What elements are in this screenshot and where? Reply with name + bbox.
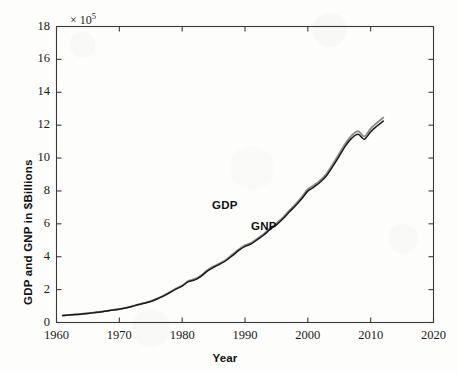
plot-canvas <box>0 0 458 373</box>
x-tick-label: 1980 <box>157 328 207 343</box>
y-tick-label: 18 <box>18 19 50 34</box>
y-tick-label: 12 <box>18 117 50 132</box>
data-series-layer <box>63 118 383 316</box>
chart-figure: × 105 024681012141618 196019701980199020… <box>0 0 458 373</box>
x-tick-label: 1970 <box>94 328 144 343</box>
series-line-gdp <box>63 121 383 316</box>
x-tick-label: 1960 <box>32 328 82 343</box>
gnp-series-label: GNP <box>251 220 277 232</box>
y-axis-tick-marks <box>57 27 434 323</box>
y-tick-label: 14 <box>18 84 50 99</box>
gdp-series-label: GDP <box>212 199 238 211</box>
y-axis-title: GDP and GNP in $Billions <box>22 159 34 305</box>
y-tick-label: 16 <box>18 51 50 66</box>
x-tick-label: 1990 <box>220 328 270 343</box>
x-axis-tick-marks <box>57 27 434 323</box>
series-line-gnp <box>63 118 383 316</box>
x-tick-label: 2010 <box>346 328 396 343</box>
x-tick-label: 2000 <box>283 328 333 343</box>
x-axis-title: Year <box>212 352 237 364</box>
x-tick-label: 2020 <box>409 328 458 343</box>
plot-frame <box>57 27 434 323</box>
